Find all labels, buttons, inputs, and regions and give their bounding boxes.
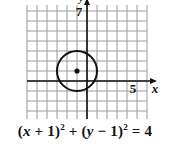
eq-plus: + ( [65, 123, 87, 139]
eq-equals-four: = 4 [128, 123, 152, 139]
x-axis-label: x [151, 81, 159, 96]
eq-var-y: y [87, 123, 94, 139]
eq-minus-one: − 1) [94, 123, 124, 139]
x-tick-label: 5 [130, 81, 137, 96]
coordinate-graph: 57xy [0, 0, 170, 122]
center-point [74, 68, 79, 73]
y-axis-arrow-icon [84, 0, 90, 5]
y-axis-label: y [78, 0, 84, 4]
circle-equation: (x + 1)2 + (y − 1)2 = 4 [0, 122, 170, 140]
eq-plus-one: + 1) [31, 123, 61, 139]
y-tick-label: 7 [76, 4, 83, 19]
eq-var-x: x [23, 123, 31, 139]
